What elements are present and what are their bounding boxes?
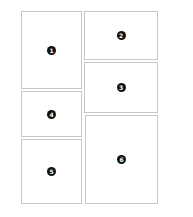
- panel-number-badge: 4: [47, 110, 56, 119]
- panel-6: 6: [85, 115, 158, 204]
- panel-3: 3: [84, 62, 158, 113]
- panel-number-badge: 6: [117, 155, 126, 164]
- panel-number-badge: 2: [117, 31, 126, 40]
- panel-number-badge: 3: [117, 83, 126, 92]
- panel-number-badge: 1: [47, 46, 56, 55]
- panel-4: 4: [21, 91, 82, 137]
- panel-number-badge: 5: [47, 167, 56, 176]
- panel-5: 5: [21, 139, 82, 204]
- panel-1: 1: [21, 11, 82, 89]
- panel-2: 2: [84, 11, 158, 60]
